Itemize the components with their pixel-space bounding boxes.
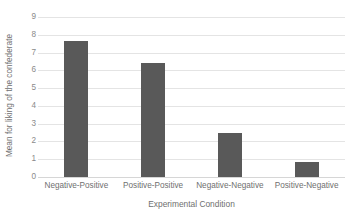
y-axis-title: Mean for liking of the confederate <box>0 0 20 190</box>
x-axis-tick-label: Negative-Positive <box>45 181 109 191</box>
y-axis-title-label: Mean for liking of the confederate <box>6 33 15 156</box>
y-axis-tick-label: 5 <box>22 84 36 92</box>
bar <box>295 162 319 177</box>
y-axis-tick-labels: 0123456789 <box>22 17 36 177</box>
bar <box>218 133 242 177</box>
bar-chart: Mean for liking of the confederate 01234… <box>0 0 357 224</box>
y-axis-tick-label: 9 <box>22 13 36 21</box>
x-axis-tick-label: Positive-Negative <box>275 181 339 191</box>
x-axis-title: Experimental Condition <box>38 199 345 209</box>
x-axis-tick-label: Negative-Negative <box>196 181 263 191</box>
gridline <box>38 177 345 178</box>
bar-series <box>38 17 345 177</box>
y-axis-tick-label: 7 <box>22 48 36 56</box>
bar <box>64 41 88 177</box>
y-axis-tick-label: 8 <box>22 31 36 39</box>
plot-area <box>38 17 345 177</box>
y-axis-tick-label: 4 <box>22 102 36 110</box>
x-axis-tick-label: Positive-Positive <box>123 181 183 191</box>
y-axis-tick-label: 1 <box>22 155 36 163</box>
y-axis-tick-label: 3 <box>22 120 36 128</box>
y-axis-tick-label: 2 <box>22 137 36 145</box>
bar <box>141 63 165 177</box>
x-axis-tick-labels: Negative-PositivePositive-PositiveNegati… <box>38 181 345 195</box>
y-axis-tick-label: 6 <box>22 66 36 74</box>
y-axis-tick-label: 0 <box>22 173 36 181</box>
